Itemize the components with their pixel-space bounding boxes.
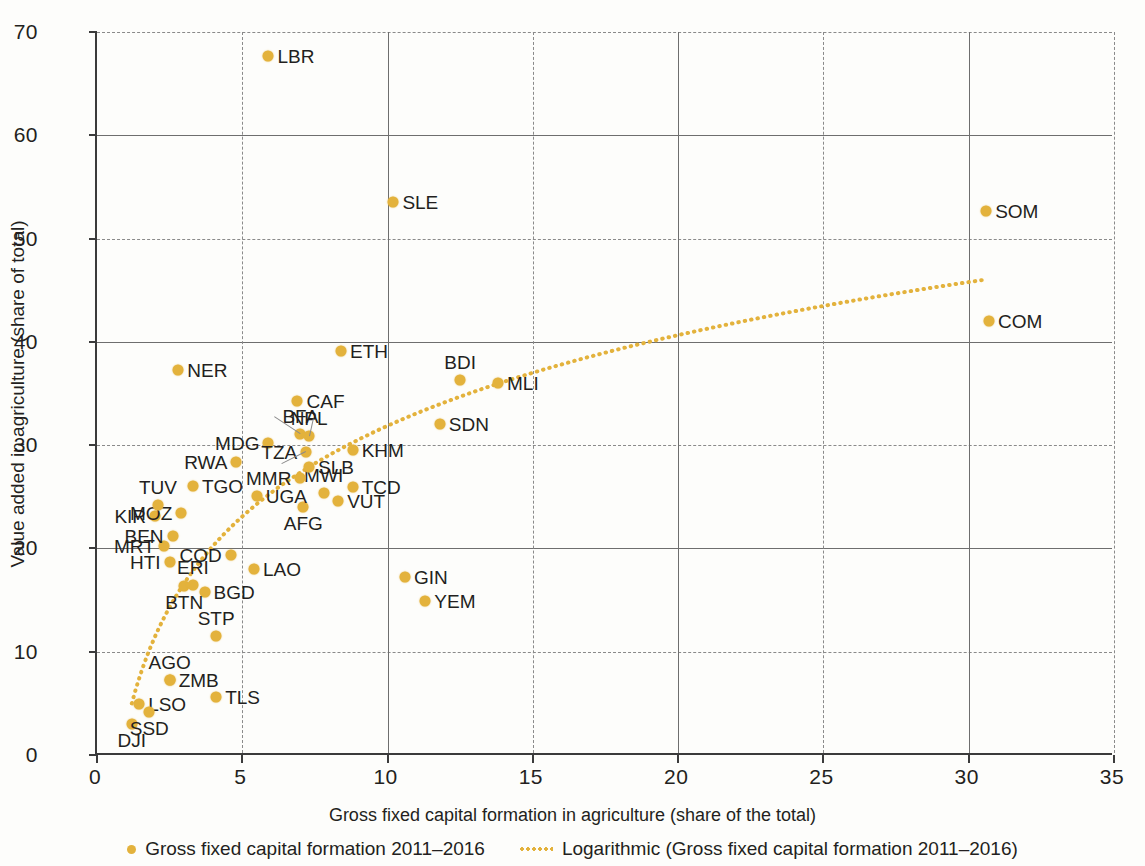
y-tick-label-0: 0 bbox=[26, 743, 38, 767]
scatter-point-moz[interactable] bbox=[176, 508, 187, 519]
scatter-point-rwa[interactable] bbox=[231, 456, 242, 467]
scatter-point-hti[interactable] bbox=[164, 556, 175, 567]
x-tick-label-20: 20 bbox=[664, 765, 688, 789]
scatter-point-com[interactable] bbox=[984, 316, 995, 327]
point-label-cod: COD bbox=[179, 545, 221, 564]
point-label-slb: SLB bbox=[318, 457, 354, 476]
scatter-point-khm[interactable] bbox=[347, 445, 358, 456]
point-label-ago: AGO bbox=[149, 653, 191, 672]
scatter-point-tls[interactable] bbox=[211, 692, 222, 703]
point-label-mdg: MDG bbox=[215, 434, 259, 453]
point-label-bdi: BDI bbox=[444, 353, 476, 372]
scatter-point-slb[interactable] bbox=[304, 461, 315, 472]
dotted-line-icon bbox=[519, 847, 553, 851]
legend-label-trendline: Logarithmic (Gross fixed capital formati… bbox=[562, 838, 1018, 860]
point-label-lao: LAO bbox=[263, 560, 301, 579]
scatter-point-caf[interactable] bbox=[292, 395, 303, 406]
y-tickmark-60 bbox=[89, 134, 97, 136]
point-label-lbr: LBR bbox=[277, 46, 314, 65]
point-label-khm: KHM bbox=[362, 441, 404, 460]
y-tick-label-70: 70 bbox=[14, 20, 38, 44]
scatter-point-bdi[interactable] bbox=[455, 375, 466, 386]
y-tickmark-10 bbox=[89, 651, 97, 653]
x-tick-label-5: 5 bbox=[234, 765, 246, 789]
scatter-point-mwi[interactable] bbox=[318, 487, 329, 498]
x-tickmark-25 bbox=[822, 755, 824, 763]
x-tickmark-15 bbox=[532, 755, 534, 763]
chart-canvas: Value added in agriculture (share of tot… bbox=[0, 0, 1145, 866]
x-tickmark-5 bbox=[241, 755, 243, 763]
point-label-gin: GIN bbox=[414, 568, 448, 587]
x-tickmark-10 bbox=[387, 755, 389, 763]
point-label-uga: UGA bbox=[266, 486, 307, 505]
x-tick-label-35: 35 bbox=[1100, 765, 1124, 789]
y-tick-label-50: 50 bbox=[14, 227, 38, 251]
point-label-tuv: TUV bbox=[139, 478, 177, 497]
point-label-btn: BTN bbox=[165, 593, 203, 612]
scatter-point-eth[interactable] bbox=[336, 346, 347, 357]
scatter-point-yem[interactable] bbox=[420, 596, 431, 607]
scatter-point-som[interactable] bbox=[981, 205, 992, 216]
point-label-mmr: MMR bbox=[246, 469, 291, 488]
point-label-rwa: RWA bbox=[184, 452, 227, 471]
scatter-point-vut[interactable] bbox=[333, 495, 344, 506]
scatter-point-mmr[interactable] bbox=[295, 473, 306, 484]
x-tick-label-30: 30 bbox=[955, 765, 979, 789]
scatter-point-stp[interactable] bbox=[211, 631, 222, 642]
scatter-point-uga[interactable] bbox=[251, 490, 262, 501]
x-tick-label-15: 15 bbox=[519, 765, 543, 789]
scatter-point-eri[interactable] bbox=[187, 579, 198, 590]
scatter-point-sle[interactable] bbox=[388, 197, 399, 208]
scatter-point-lbr[interactable] bbox=[263, 50, 274, 61]
scatter-point-ago[interactable] bbox=[164, 674, 175, 685]
legend-item-trendline[interactable]: Logarithmic (Gross fixed capital formati… bbox=[519, 838, 1018, 860]
x-tickmark-0 bbox=[96, 755, 98, 763]
y-tick-label-10: 10 bbox=[14, 640, 38, 664]
scatter-point-ner[interactable] bbox=[173, 364, 184, 375]
point-label-stp: STP bbox=[198, 609, 235, 628]
x-axis-title: Gross fixed capital formation in agricul… bbox=[0, 805, 1145, 826]
legend-label-scatter: Gross fixed capital formation 2011–2016 bbox=[145, 838, 485, 860]
scatter-point-cod[interactable] bbox=[225, 549, 236, 560]
scatter-point-ssd[interactable] bbox=[144, 706, 155, 717]
y-tick-label-60: 60 bbox=[14, 123, 38, 147]
point-label-ben: BEN bbox=[124, 527, 163, 546]
y-tickmark-70 bbox=[89, 31, 97, 33]
y-tickmark-50 bbox=[89, 238, 97, 240]
scatter-point-tuv[interactable] bbox=[153, 500, 164, 511]
point-label-sdn: SDN bbox=[449, 415, 489, 434]
scatter-point-gin[interactable] bbox=[400, 572, 411, 583]
point-label-afg: AFG bbox=[284, 514, 323, 533]
legend-item-scatter[interactable]: Gross fixed capital formation 2011–2016 bbox=[127, 838, 485, 860]
scatter-point-sdn[interactable] bbox=[434, 419, 445, 430]
point-label-tgo: TGO bbox=[202, 477, 243, 496]
point-label-ner: NER bbox=[187, 360, 227, 379]
y-tick-label-40: 40 bbox=[14, 330, 38, 354]
y-tick-label-30: 30 bbox=[14, 433, 38, 457]
scatter-dot-icon bbox=[127, 845, 136, 854]
point-label-zmb: ZMB bbox=[179, 670, 219, 689]
chart-legend: Gross fixed capital formation 2011–2016 … bbox=[0, 838, 1145, 860]
point-label-npl: NPL bbox=[291, 409, 328, 428]
point-label-eth: ETH bbox=[350, 342, 388, 361]
scatter-point-lso[interactable] bbox=[134, 699, 145, 710]
point-label-ssd: SSD bbox=[130, 719, 169, 738]
y-tickmark-40 bbox=[89, 341, 97, 343]
point-label-tcd: TCD bbox=[362, 478, 401, 497]
point-label-bgd: BGD bbox=[214, 582, 255, 601]
point-label-moz: MOZ bbox=[130, 504, 172, 523]
plot-area: DJILSOSSDZMBAGOTLSSTPBGDBTNERIGINYEMHTIL… bbox=[95, 32, 1112, 755]
y-tickmark-30 bbox=[89, 444, 97, 446]
point-label-mli: MLI bbox=[507, 374, 539, 393]
x-tickmark-20 bbox=[677, 755, 679, 763]
scatter-point-tgo[interactable] bbox=[187, 481, 198, 492]
point-label-tls: TLS bbox=[225, 688, 260, 707]
scatter-point-ben[interactable] bbox=[167, 531, 178, 542]
x-tickmark-35 bbox=[1113, 755, 1115, 763]
scatter-point-lao[interactable] bbox=[248, 564, 259, 575]
scatter-point-mli[interactable] bbox=[492, 378, 503, 389]
y-tickmark-20 bbox=[89, 547, 97, 549]
x-tick-label-0: 0 bbox=[89, 765, 101, 789]
scatter-point-tcd[interactable] bbox=[347, 482, 358, 493]
point-label-sle: SLE bbox=[402, 193, 438, 212]
